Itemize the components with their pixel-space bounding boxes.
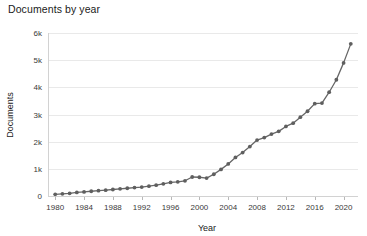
data-point <box>277 129 281 133</box>
data-point <box>61 192 65 196</box>
data-point-markers <box>53 42 352 196</box>
data-point <box>169 181 173 185</box>
data-point <box>82 190 86 194</box>
gridlines <box>48 34 358 197</box>
data-point <box>262 136 266 140</box>
data-point <box>125 186 129 190</box>
data-point <box>154 183 158 187</box>
data-line-documents <box>55 44 351 195</box>
data-point <box>320 101 324 105</box>
chart-plot-area: 1980198419881992199620002004200820122016… <box>0 0 367 236</box>
data-point <box>68 191 72 195</box>
data-point <box>176 180 180 184</box>
data-point <box>133 186 137 190</box>
data-point <box>234 156 238 160</box>
data-point <box>75 191 79 195</box>
x-tick-label: 1984 <box>75 203 93 212</box>
data-point <box>327 90 331 94</box>
y-tick-label: 6k <box>34 29 43 38</box>
x-tick-label: 2000 <box>190 203 208 212</box>
y-axis-title: Documents <box>5 92 15 138</box>
data-point <box>205 176 209 180</box>
x-tick-label: 2008 <box>248 203 266 212</box>
y-tick-label: 5k <box>34 56 43 65</box>
data-point <box>190 175 194 179</box>
data-point <box>97 189 101 193</box>
data-point <box>183 179 187 183</box>
y-tick-label: 4k <box>34 83 43 92</box>
y-axis-tick-labels: 01k2k3k4k5k6k <box>34 29 43 201</box>
data-point <box>104 188 108 192</box>
data-point <box>212 172 216 176</box>
y-tick-label: 1k <box>34 165 43 174</box>
data-point <box>241 151 245 155</box>
x-tick-label: 1992 <box>133 203 151 212</box>
y-tick-label: 2k <box>34 138 43 147</box>
data-point <box>53 192 57 196</box>
y-tick-label: 0 <box>38 192 43 201</box>
data-point <box>298 115 302 119</box>
y-tick-label: 3k <box>34 111 43 120</box>
data-point <box>118 187 122 191</box>
x-tick-label: 2016 <box>306 203 324 212</box>
x-tick-label: 2012 <box>277 203 295 212</box>
x-tick-label: 1996 <box>162 203 180 212</box>
x-tick-label: 2004 <box>219 203 237 212</box>
data-point <box>198 175 202 179</box>
data-point <box>226 162 230 166</box>
data-point <box>313 102 317 106</box>
data-point <box>342 61 346 65</box>
data-point <box>284 125 288 129</box>
data-point <box>111 188 115 192</box>
x-tick-label: 1988 <box>104 203 122 212</box>
data-point <box>219 167 223 171</box>
data-point <box>306 109 310 113</box>
x-axis-tick-labels: 1980198419881992199620002004200820122016… <box>46 197 353 212</box>
data-point <box>270 132 274 136</box>
data-point <box>147 184 151 188</box>
x-axis-title: Year <box>198 223 216 233</box>
data-point <box>349 42 353 46</box>
data-point <box>255 138 259 142</box>
data-point <box>161 182 165 186</box>
documents-by-year-chart: Documents by year 1980198419881992199620… <box>0 0 367 236</box>
data-point <box>334 78 338 82</box>
x-tick-label: 2020 <box>335 203 353 212</box>
x-tick-label: 1980 <box>46 203 64 212</box>
data-point <box>140 185 144 189</box>
data-point <box>89 189 93 193</box>
data-point <box>291 121 295 125</box>
data-point <box>248 145 252 149</box>
axis-lines <box>48 33 358 197</box>
